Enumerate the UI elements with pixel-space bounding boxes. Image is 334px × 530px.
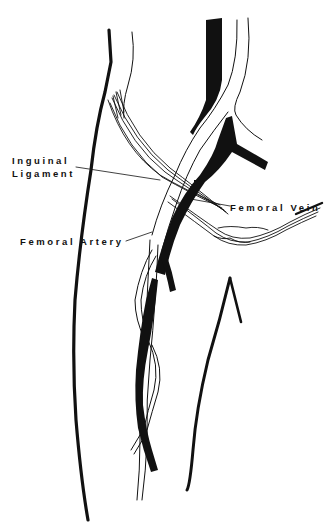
femoral-vein-small-branch	[194, 180, 198, 192]
femoral-artery-label: Femoral Artery	[20, 236, 124, 247]
genital-contour	[230, 278, 241, 322]
abdominal-contour	[124, 32, 134, 118]
lateral-thigh-contour	[74, 30, 111, 520]
inguinal-ligament-label-line1: Inguinal	[12, 155, 69, 166]
femoral-vein-lower	[135, 278, 158, 472]
femoral-anatomy-diagram	[0, 0, 334, 530]
femoral-artery-leader	[126, 232, 152, 241]
femoral-vein-upper	[155, 116, 268, 275]
femoral-artery-lower-loop-inner	[147, 345, 160, 430]
external-iliac-artery-right-wall	[235, 18, 262, 140]
inguinal-ligament-label-line2: Ligament	[12, 168, 75, 179]
medial-thigh-contour	[187, 278, 230, 490]
femoral-vein-label: Femoral Vein	[230, 202, 320, 213]
external-iliac-vein	[190, 18, 222, 135]
